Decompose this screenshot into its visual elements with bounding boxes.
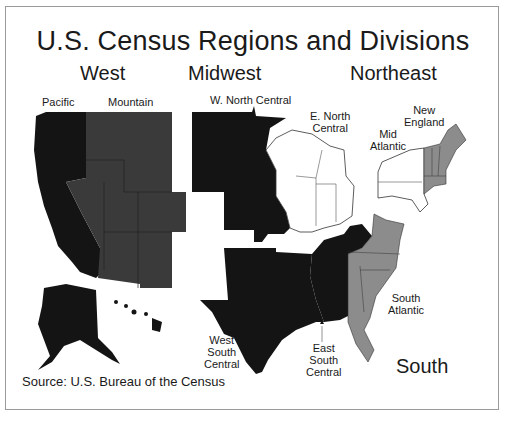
division-label-east-south-central: East South Central — [306, 342, 341, 378]
label-line: South — [388, 292, 424, 304]
division-label-w-north-central: W. North Central — [210, 94, 291, 106]
division-label-new-england: New England — [404, 104, 444, 128]
label-line: E. North — [310, 110, 350, 122]
division-label-pacific: Pacific — [42, 96, 74, 108]
label-line: Atlantic — [388, 304, 424, 316]
label-line: Central — [204, 358, 239, 370]
label-line: Atlantic — [370, 140, 406, 152]
label-line: Central — [306, 366, 341, 378]
label-line: Central — [310, 122, 350, 134]
label-line: West — [204, 334, 239, 346]
alaska-shape — [38, 284, 120, 370]
w-north-central-division-shape — [192, 106, 290, 242]
division-label-mountain: Mountain — [108, 96, 153, 108]
source-note: Source: U.S. Bureau of the Census — [22, 374, 225, 389]
label-line: Mid — [370, 128, 406, 140]
label-line: South — [204, 346, 239, 358]
label-line: New — [404, 104, 444, 116]
hawaii-shape — [114, 300, 162, 332]
label-line: East — [306, 342, 341, 354]
new-england-division-shape — [424, 124, 466, 194]
division-label-e-north-central: E. North Central — [310, 110, 350, 134]
label-line: England — [404, 116, 444, 128]
mid-atlantic-division-shape — [378, 148, 428, 212]
division-label-south-atlantic: South Atlantic — [388, 292, 424, 316]
division-label-west-south-central: West South Central — [204, 334, 239, 370]
region-label-south: South — [396, 355, 448, 378]
division-label-mid-atlantic: Mid Atlantic — [370, 128, 406, 152]
label-line: South — [306, 354, 341, 366]
